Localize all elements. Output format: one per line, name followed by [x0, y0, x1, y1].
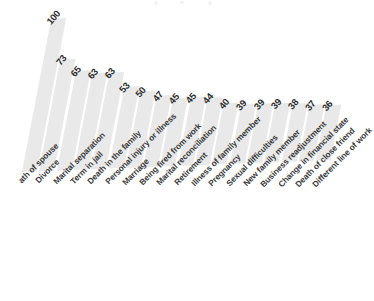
category-labels: ath of spouseDivorceMarital separationTe…: [0, 172, 353, 301]
